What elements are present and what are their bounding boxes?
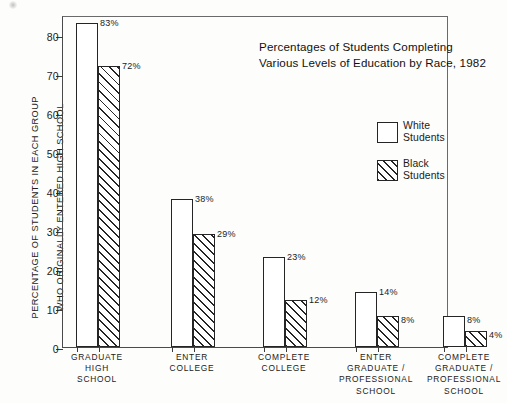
x-category-label-2: COMPLETECOLLEGE [238, 352, 330, 374]
bar-value-label: 83% [100, 17, 119, 27]
bar-value-label: 14% [379, 287, 398, 297]
scan-artifact [8, 1, 18, 9]
x-category-label-line: ENTER [146, 352, 238, 363]
bar-value-label: 8% [467, 315, 480, 325]
x-category-label-line: COLLEGE [238, 363, 330, 374]
y-tick-label: 60 [47, 109, 59, 121]
bar-black-students-3: 8% [377, 316, 399, 347]
bar-value-label: 12% [309, 295, 328, 305]
bar-white-students-3: 14% [355, 292, 377, 347]
legend-label-white-students: White Students [403, 120, 445, 145]
x-category-label-4: COMPLETEGRADUATE /PROFESSIONALSCHOOL [418, 352, 507, 397]
bar-value-label: 29% [217, 228, 236, 238]
y-tick-label: 30 [47, 226, 59, 238]
bar-black-students-0: 72% [98, 66, 120, 347]
x-category-label-line: GRADUATE [51, 352, 143, 363]
legend-label-white-students-line-1: White [403, 120, 445, 132]
chart-title-line-1: Percentages of Students Completing [259, 39, 507, 55]
x-category-label-line: PROFESSIONAL [418, 374, 507, 385]
y-tick-label: 50 [47, 148, 59, 160]
legend-label-black-students: Black Students [403, 158, 445, 183]
x-category-label-line: SCHOOL [51, 374, 143, 385]
chart-title: Percentages of Students Completing Vario… [259, 39, 507, 70]
x-category-label-3: ENTERGRADUATE /PROFESSIONALSCHOOL [330, 352, 422, 397]
bar-black-students-4: 4% [465, 331, 487, 347]
y-tick-label: 80 [47, 31, 59, 43]
bar-group-0: 83%72% [76, 17, 120, 347]
bar-value-label: 38% [195, 193, 214, 203]
bar-white-students-2: 23% [263, 257, 285, 347]
legend-label-white-students-line-2: Students [403, 132, 445, 144]
bar-group-1: 38%29% [171, 17, 215, 347]
x-category-label-line: SCHOOL [330, 386, 422, 397]
bar-white-students-1: 38% [171, 199, 193, 347]
y-tick-label: 10 [47, 304, 59, 316]
x-category-label-line: HIGH [51, 363, 143, 374]
bar-white-students-0: 83% [76, 23, 98, 347]
bar-black-students-2: 12% [285, 300, 307, 347]
x-category-label-line: COMPLETE [418, 352, 507, 363]
x-axis-category-labels: GRADUATEHIGHSCHOOLENTERCOLLEGECOMPLETECO… [62, 352, 448, 402]
legend-swatch-black-students [377, 160, 398, 181]
legend-label-black-students-line-2: Students [403, 170, 445, 182]
bar-value-label: 4% [489, 330, 502, 340]
bar-black-students-1: 29% [193, 234, 215, 347]
y-axis-title-line-1: PERCENTAGE OF STUDENTS IN EACH GROUP [28, 42, 41, 372]
bar-value-label: 8% [401, 315, 414, 325]
x-category-label-line: COLLEGE [146, 363, 238, 374]
x-category-label-line: GRADUATE / [330, 363, 422, 374]
x-category-label-1: ENTERCOLLEGE [146, 352, 238, 374]
bar-value-label: 72% [122, 60, 141, 70]
y-tick-label: 20 [47, 265, 59, 277]
legend-swatch-white-students [377, 122, 398, 143]
y-tick-label: 70 [47, 70, 59, 82]
x-category-label-0: GRADUATEHIGHSCHOOL [51, 352, 143, 386]
plot-area: 01020304050607080 83%72%38%29%23%12%14%8… [62, 16, 448, 348]
y-tick-label: 40 [47, 187, 59, 199]
x-category-label-line: SCHOOL [418, 386, 507, 397]
legend-label-black-students-line-1: Black [403, 158, 445, 170]
x-category-label-line: COMPLETE [238, 352, 330, 363]
x-category-label-line: GRADUATE / [418, 363, 507, 374]
x-category-label-line: PROFESSIONAL [330, 374, 422, 385]
bar-white-students-4: 8% [443, 316, 465, 347]
bar-value-label: 23% [287, 252, 306, 262]
chart-title-line-2: Various Levels of Education by Race, 198… [259, 55, 507, 71]
x-category-label-line: ENTER [330, 352, 422, 363]
